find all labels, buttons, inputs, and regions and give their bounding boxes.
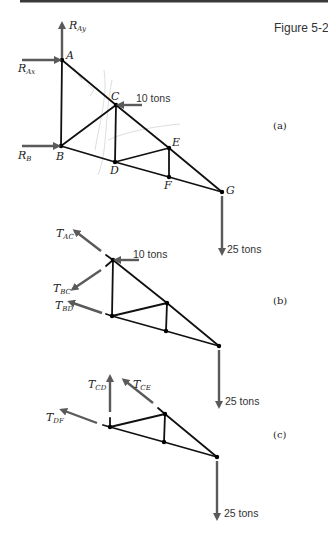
force-arrow-icon (62, 410, 97, 423)
panel-a: ABCDEFGRAyRAxRB10 tons25 tons(a) (17, 19, 287, 255)
node-label-F: F (163, 179, 172, 192)
member-BD (61, 146, 115, 162)
force-arrow-icon (73, 270, 101, 289)
node-G (220, 190, 224, 194)
node-label-B: B (55, 150, 64, 163)
force-label-RB: RB (17, 149, 31, 163)
panel-label-b: (b) (273, 295, 287, 306)
top-rule (20, 0, 328, 3)
member-DE (115, 148, 169, 162)
node-D (110, 314, 114, 318)
force-label-RAx: RAx (17, 62, 35, 76)
node-label-E: E (171, 136, 180, 149)
force-arrow-icon (70, 302, 102, 313)
node-G (215, 455, 219, 459)
force-label-TCD: TCD (88, 378, 107, 392)
node-A (60, 58, 64, 62)
node-F (164, 329, 168, 333)
force-label-TAC: TAC (56, 227, 74, 241)
member-DE (110, 414, 165, 427)
node-D (108, 425, 112, 429)
member-DE (112, 303, 167, 316)
node-F (162, 440, 166, 444)
node-label-A: A (65, 49, 74, 62)
member-EF (166, 303, 167, 331)
member-AB (61, 60, 62, 146)
node-E (163, 412, 167, 416)
node-B (59, 144, 63, 148)
member-BC (61, 105, 116, 146)
node-C (114, 103, 118, 107)
node-G (217, 344, 221, 348)
figure-title: Figure 5-2 (274, 21, 328, 35)
node-label-D: D (109, 164, 119, 177)
node-E (167, 146, 171, 150)
member-DF (110, 427, 164, 442)
force-label-RAy: RAy (68, 19, 87, 33)
member-DF (115, 162, 169, 177)
panel-label-a: (a) (273, 120, 287, 131)
load-label: 25 tons (227, 243, 261, 255)
node-E (165, 301, 169, 305)
truss-figure: Figure 5-2 ABCDEFGRAyRAxRB10 tons25 tons… (0, 0, 328, 536)
load-label: 25 tons (225, 395, 259, 407)
node-C (111, 258, 115, 262)
truss-panels: ABCDEFGRAyRAxRB10 tons25 tons(a)TACTBCTB… (17, 19, 287, 519)
load-label: 10 tons (133, 248, 167, 260)
member-CD (112, 260, 113, 316)
member-DF (112, 316, 166, 331)
member-EF (164, 414, 165, 442)
force-arrow-icon (75, 231, 101, 251)
panel-label-c: (c) (273, 429, 287, 440)
force-label-TBC: TBC (53, 282, 72, 296)
node-label-G: G (226, 184, 235, 197)
member-AC (62, 60, 116, 105)
force-label-TCE: TCE (133, 378, 151, 392)
force-label-TDF: TDF (46, 411, 65, 425)
load-label: 25 tons (224, 507, 258, 519)
member-CD (115, 105, 116, 162)
load-label: 10 tons (136, 92, 170, 104)
member-CE (113, 260, 167, 303)
node-label-C: C (111, 90, 120, 103)
